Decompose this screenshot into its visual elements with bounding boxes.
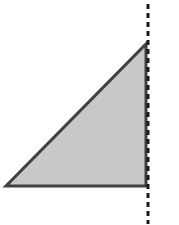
right-triangle [6,44,146,186]
diagram-canvas [0,0,179,225]
triangle-diagram [0,0,179,225]
